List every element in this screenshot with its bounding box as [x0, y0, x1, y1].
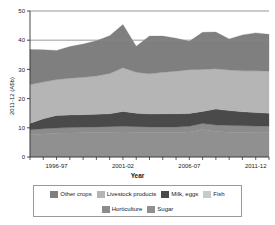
- svg-text:20: 20: [18, 96, 25, 102]
- legend-label-horticulture: Horticulture: [112, 206, 143, 213]
- svg-text:0: 0: [22, 154, 26, 160]
- legend-label-milk-eggs: Milk, eggs: [171, 191, 198, 198]
- legend-swatch-livestock-products: [97, 191, 105, 198]
- legend-item-sugar: Sugar: [147, 206, 173, 213]
- legend-swatch-milk-eggs: [161, 191, 169, 198]
- legend-row-1: Other crops Livestock products Milk, egg…: [34, 187, 241, 202]
- legend-swatch-other-crops: [50, 191, 58, 198]
- legend-label-livestock-products: Livestock products: [107, 191, 157, 198]
- legend-item-horticulture: Horticulture: [102, 206, 143, 213]
- legend-label-other-crops: Other crops: [60, 191, 91, 198]
- legend-swatch-horticulture: [102, 206, 110, 213]
- plot-svg: 010203040501996-972001-022006-072011-12: [0, 4, 275, 179]
- legend-swatch-fish: [203, 191, 211, 198]
- legend-item-fish: Fish: [203, 191, 224, 198]
- svg-text:2001-02: 2001-02: [112, 163, 135, 169]
- legend-item-other-crops: Other crops: [50, 191, 91, 198]
- legend-row-2: Horticulture Sugar: [34, 202, 241, 217]
- legend-swatch-sugar: [147, 206, 155, 213]
- legend-label-sugar: Sugar: [157, 206, 173, 213]
- legend-label-fish: Fish: [213, 191, 224, 198]
- stacked-area-chart: 2011-12 (A$b) 010203040501996-972001-022…: [0, 0, 275, 225]
- svg-text:2006-07: 2006-07: [178, 163, 201, 169]
- plot-area: 010203040501996-972001-022006-072011-12: [0, 4, 275, 179]
- svg-text:50: 50: [18, 8, 25, 14]
- svg-text:30: 30: [18, 67, 25, 73]
- svg-text:40: 40: [18, 37, 25, 43]
- svg-text:2011-12: 2011-12: [245, 163, 267, 169]
- svg-text:1996-97: 1996-97: [46, 163, 69, 169]
- legend-item-milk-eggs: Milk, eggs: [161, 191, 198, 198]
- legend-item-livestock-products: Livestock products: [97, 191, 157, 198]
- x-axis-label: Year: [0, 172, 275, 179]
- legend: Other crops Livestock products Milk, egg…: [33, 185, 242, 217]
- svg-text:10: 10: [18, 125, 25, 131]
